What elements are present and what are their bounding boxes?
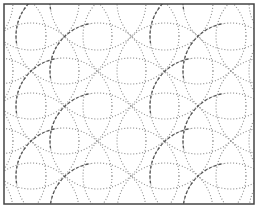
dashed-arc bbox=[183, 24, 223, 79]
dotted-circle bbox=[150, 128, 246, 209]
dotted-circle bbox=[0, 23, 13, 119]
dashed-arc bbox=[16, 0, 56, 44]
dashed-arc bbox=[150, 59, 190, 114]
dotted-circle bbox=[83, 128, 179, 209]
dotted-circle bbox=[0, 0, 46, 84]
dotted-circle bbox=[183, 0, 259, 50]
dotted-circle bbox=[183, 93, 259, 189]
dotted-circle bbox=[0, 163, 13, 209]
dotted-circle bbox=[0, 0, 79, 50]
dashed-arc bbox=[183, 164, 223, 209]
dashed-arc bbox=[183, 94, 223, 149]
dotted-circle bbox=[50, 163, 146, 209]
frame-border bbox=[4, 4, 254, 204]
dashed-arc bbox=[183, 0, 223, 10]
dotted-circle bbox=[0, 93, 13, 189]
circle-arcs bbox=[0, 0, 259, 209]
dotted-circle bbox=[0, 58, 46, 154]
dashed-arc bbox=[50, 24, 90, 79]
dotted-circle bbox=[117, 0, 213, 50]
dotted-circle bbox=[0, 0, 13, 50]
dotted-circle bbox=[216, 0, 259, 84]
pattern-canvas bbox=[0, 0, 259, 209]
dotted-circle bbox=[216, 58, 259, 154]
dashed-arc bbox=[150, 129, 190, 184]
dotted-circle bbox=[0, 128, 46, 209]
dashed-arc bbox=[150, 0, 190, 44]
dotted-circle bbox=[183, 23, 259, 119]
dotted-circle bbox=[183, 163, 259, 209]
circle-pattern bbox=[0, 0, 259, 209]
dashed-arc bbox=[50, 94, 90, 149]
dotted-circle bbox=[50, 0, 146, 50]
dotted-circle bbox=[216, 128, 259, 209]
dotted-circle bbox=[117, 163, 213, 209]
dashed-arc bbox=[50, 0, 90, 10]
dotted-circle bbox=[0, 163, 79, 209]
